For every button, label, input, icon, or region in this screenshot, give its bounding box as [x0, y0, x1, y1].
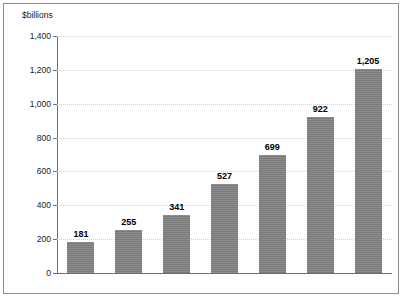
bar[interactable]: [259, 155, 286, 273]
gridline: [57, 36, 392, 37]
y-axis-tick-mark: [53, 205, 57, 206]
y-axis-tick-mark: [53, 104, 57, 105]
bar-value-label: 699: [250, 142, 294, 152]
gridline: [57, 273, 392, 274]
y-axis-tick-label: 1,200: [5, 65, 51, 75]
bar[interactable]: [307, 117, 334, 273]
bar[interactable]: [211, 184, 238, 273]
bar[interactable]: [355, 69, 382, 273]
y-axis-tick-mark: [53, 273, 57, 274]
bar-value-label: 255: [107, 217, 151, 227]
plot-area: 1812002255200334120045272005699200692220…: [57, 36, 392, 273]
y-axis-title: $billions: [22, 10, 53, 20]
y-axis-tick-label: 400: [5, 200, 51, 210]
gridline: [57, 70, 392, 71]
bar[interactable]: [67, 242, 94, 273]
bar-value-label: 181: [59, 229, 103, 239]
y-axis-tick-labels: 02004006008001,0001,2001,400: [3, 36, 51, 274]
bar-value-label: 1,205: [346, 56, 390, 66]
y-axis-tick-label: 0: [5, 268, 51, 278]
y-axis-tick-label: 1,400: [5, 31, 51, 41]
y-axis-tick-label: 1,000: [5, 99, 51, 109]
y-axis-tick-mark: [53, 239, 57, 240]
y-axis-tick-label: 800: [5, 133, 51, 143]
bar[interactable]: [115, 230, 142, 273]
chart-figure: $billions 02004006008001,0001,2001,400 1…: [0, 0, 410, 303]
bar-value-label: 341: [155, 202, 199, 212]
y-axis-tick-label: 600: [5, 166, 51, 176]
bar[interactable]: [163, 215, 190, 273]
gridline: [57, 138, 392, 139]
y-axis-tick-mark: [53, 36, 57, 37]
bar-value-label: 527: [203, 171, 247, 181]
y-axis-tick-mark: [53, 138, 57, 139]
y-axis-tick-mark: [53, 70, 57, 71]
y-axis-tick-label: 200: [5, 234, 51, 244]
bar-value-label: 922: [298, 104, 342, 114]
y-axis-tick-mark: [53, 171, 57, 172]
